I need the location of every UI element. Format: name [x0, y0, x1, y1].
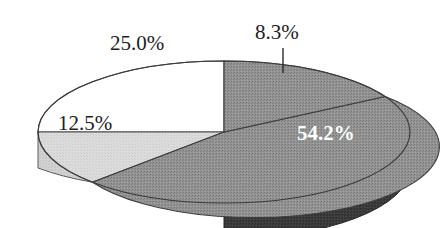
slice-label-250: 25.0%	[110, 33, 164, 54]
slice-label-542: 54.2%	[297, 123, 355, 144]
slice-label-83: 8.3%	[255, 22, 299, 43]
slice-label-125: 12.5%	[58, 113, 112, 134]
pie-chart-figure: 8.3% 54.2% 12.5% 25.0%	[0, 0, 446, 228]
